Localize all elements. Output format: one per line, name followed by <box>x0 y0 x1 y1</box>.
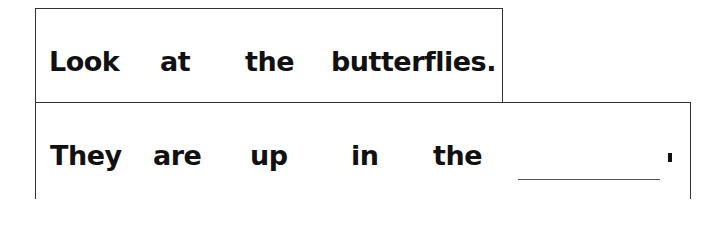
word: at <box>160 48 190 75</box>
word: the <box>245 48 294 75</box>
fill-in-blank-line[interactable] <box>518 179 660 180</box>
word: butterflies. <box>331 48 496 75</box>
word: They <box>50 142 122 169</box>
word: in <box>351 142 378 169</box>
period-mark <box>668 153 672 162</box>
word: up <box>250 142 288 169</box>
word: the <box>433 142 482 169</box>
word: Look <box>49 48 119 75</box>
word: are <box>153 142 201 169</box>
